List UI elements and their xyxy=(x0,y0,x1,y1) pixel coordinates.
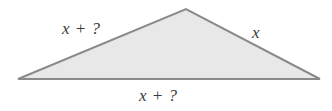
triangle-left-side-label: x + ? xyxy=(62,20,101,37)
triangle-right-side-label: x xyxy=(252,24,260,41)
triangle-base-side-label: x + ? xyxy=(139,87,178,104)
triangle-figure: x + ? x x + ? xyxy=(0,0,332,111)
